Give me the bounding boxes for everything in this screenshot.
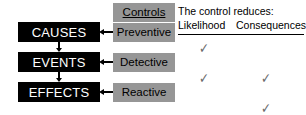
arrow-detective-to-events-icon	[99, 59, 114, 65]
check-mark-icon: ✓	[261, 71, 271, 85]
matrix-header-consequences: Consequences	[236, 20, 306, 32]
bowtie-control-diagram: CAUSES EVENTS EFFECTS Controls Preventiv…	[0, 0, 306, 115]
check-mark-icon: ✓	[261, 101, 271, 115]
matrix-caption: The control reduces:	[178, 6, 304, 18]
chain-box-effects-label: EFFECTS	[29, 86, 90, 99]
controls-column-header: Controls	[113, 3, 175, 22]
matrix-row-reactive: ✓	[178, 95, 304, 115]
control-box-reactive-label: Reactive	[122, 87, 167, 99]
chain-box-effects: EFFECTS	[18, 82, 100, 102]
controls-column-header-label: Controls	[123, 7, 166, 19]
matrix-column-headers: Likelihood Consequences	[178, 20, 304, 35]
check-mark-icon: ✓	[199, 71, 209, 85]
arrow-reactive-to-effects-icon	[99, 89, 114, 95]
control-box-detective-label: Detective	[120, 57, 168, 69]
matrix-header-likelihood: Likelihood	[178, 20, 225, 32]
chain-box-causes-label: CAUSES	[32, 26, 87, 39]
matrix-row-detective: ✓ ✓	[178, 65, 304, 95]
chain-box-events: EVENTS	[18, 52, 100, 72]
chain-box-causes: CAUSES	[18, 22, 100, 42]
control-box-preventive: Preventive	[113, 23, 175, 42]
arrow-causes-to-events-icon	[57, 41, 61, 52]
check-mark-icon: ✓	[199, 41, 209, 55]
control-box-detective: Detective	[113, 53, 175, 72]
matrix-row-preventive: ✓	[178, 35, 304, 65]
control-box-preventive-label: Preventive	[117, 27, 171, 39]
control-box-reactive: Reactive	[113, 83, 175, 102]
control-effect-matrix: The control reduces: Likelihood Conseque…	[178, 6, 304, 115]
chain-box-events-label: EVENTS	[32, 56, 85, 69]
arrow-preventive-to-causes-icon	[99, 29, 114, 35]
arrow-events-to-effects-icon	[57, 71, 61, 82]
